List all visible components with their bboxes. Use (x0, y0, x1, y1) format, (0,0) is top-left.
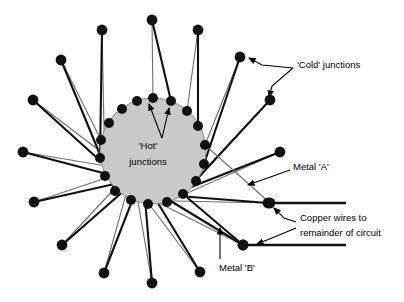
hot-junctions-label-line2: junctions (128, 156, 167, 167)
metal-b-wire (152, 20, 171, 101)
cold-junction-dot (99, 268, 110, 279)
cold-junction-dot (147, 15, 158, 26)
cold-junction-dot (29, 197, 40, 208)
cold-junction-dot (97, 25, 108, 36)
leader-arrow-cold-upper (249, 58, 293, 68)
leader-arrow-cold-lower (269, 68, 293, 97)
copper-wires-group (238, 198, 346, 251)
lower-copper-wire-terminal-dot (238, 240, 249, 251)
leader-arrow-copper-upper (274, 208, 296, 222)
hot-junction-dot (199, 159, 209, 169)
hot-junction-dot (143, 199, 153, 209)
hot-junction-dot (162, 197, 172, 207)
copper-wires-label-line1: Copper wires to (300, 212, 367, 223)
hot-junction-dot (148, 93, 158, 103)
cold-junction-dot (275, 147, 286, 158)
hot-junction-dot (166, 96, 176, 106)
hot-junction-dot (95, 153, 105, 163)
leader-arrow-metal-a (248, 170, 290, 185)
hot-junction-dot (182, 106, 192, 116)
cold-junction-dot (57, 240, 68, 251)
metal-b-wire (204, 57, 240, 164)
hot-junctions-label-line1: 'Hot' (139, 140, 158, 151)
metal-a-terminal-lead (205, 145, 270, 203)
metal-a-wire (152, 20, 153, 98)
cold-junction-dot (56, 55, 67, 66)
hot-junction-dot (126, 195, 136, 205)
hot-junction-dot (178, 189, 188, 199)
thermopile-svg: 'Hot' junctions 'Cold' junctions Metal '… (0, 0, 404, 302)
cold-junction-dot (18, 147, 29, 158)
cold-junction-dot (265, 95, 276, 106)
cold-junctions-label: 'Cold' junctions (297, 59, 361, 70)
leader-arrow-copper-lower (257, 228, 296, 244)
hot-junction-dot (193, 121, 203, 131)
hot-junction-dot (96, 135, 106, 145)
metal-a-wire (187, 30, 198, 111)
hot-junction-dot (104, 118, 114, 128)
cold-junction-dot (193, 25, 204, 36)
hot-junction-dot (200, 140, 210, 150)
cold-junction-dot (147, 278, 158, 289)
hot-junction-dot (117, 104, 127, 114)
cold-junction-dot (195, 267, 206, 278)
cold-junction-dot (235, 52, 246, 63)
cold-junction-dot (28, 95, 39, 106)
copper-wires-label-line2: remainder of circuit (300, 227, 381, 238)
thermopile-diagram: 'Hot' junctions 'Cold' junctions Metal '… (0, 0, 404, 302)
hot-junction-dot (132, 96, 142, 106)
metal-b-label: Metal 'B' (219, 262, 255, 273)
hot-junction-dot (100, 171, 110, 181)
hot-junction-dot (191, 176, 201, 186)
upper-copper-wire-terminal-dot (265, 198, 276, 209)
hot-junction-dot (110, 186, 120, 196)
metal-a-label: Metal 'A' (293, 161, 329, 172)
